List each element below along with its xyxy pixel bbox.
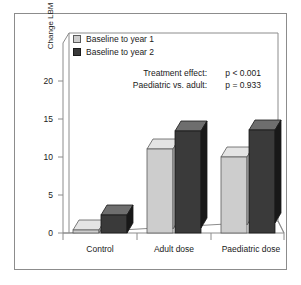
- annotation-paediatric-vs-adult: Paediatric vs. adult: p = 0.933: [119, 80, 261, 90]
- annotation-value-paediatric-vs-adult: p = 0.933: [207, 80, 261, 90]
- legend-swatch-year1: [73, 35, 81, 43]
- annotation-label-paediatric-vs-adult: Paediatric vs. adult:: [119, 80, 207, 90]
- annotation-label-treatment-effect: Treatment effect:: [119, 68, 207, 78]
- figure-frame: Change LBM (%) 20 15 10 5 0 Control Adul…: [14, 13, 287, 270]
- x-axis-ticks: [63, 233, 284, 240]
- bar-paediatric-year2: [249, 120, 281, 233]
- bar-control-year1: [73, 220, 105, 233]
- annotation-treatment-effect: Treatment effect: p < 0.001: [119, 68, 261, 78]
- y-axis-label: Change LBM (%): [46, 0, 55, 54]
- bar-control-year2: [101, 205, 133, 233]
- bar-paediatric-year1: [221, 147, 253, 233]
- y-tick-label-5: 5: [35, 190, 53, 200]
- bar-adult-year1: [147, 139, 179, 233]
- x-tick-label-adult-dose: Adult dose: [143, 244, 205, 254]
- y-tick-label-20: 20: [35, 76, 53, 86]
- legend-label-year1: Baseline to year 1: [86, 34, 154, 44]
- x-tick-label-control: Control: [70, 244, 130, 254]
- legend-label-year2: Baseline to year 2: [86, 47, 154, 57]
- legend-item-year2: Baseline to year 2: [73, 47, 154, 57]
- chart-annotations: Treatment effect: p < 0.001 Paediatric v…: [119, 68, 261, 92]
- chart-plot-area: Change LBM (%) 20 15 10 5 0 Control Adul…: [15, 14, 288, 271]
- y-tick-label-0: 0: [35, 228, 53, 238]
- bar-adult-year2: [175, 121, 207, 233]
- annotation-value-treatment-effect: p < 0.001: [207, 68, 261, 78]
- x-tick-label-paediatric-dose: Paediatric dose: [213, 244, 289, 254]
- legend-swatch-year2: [73, 48, 81, 56]
- y-axis-ticks: [58, 81, 63, 233]
- chart-legend: Baseline to year 1 Baseline to year 2: [73, 34, 154, 60]
- y-tick-label-10: 10: [35, 152, 53, 162]
- y-tick-label-15: 15: [35, 114, 53, 124]
- legend-item-year1: Baseline to year 1: [73, 34, 154, 44]
